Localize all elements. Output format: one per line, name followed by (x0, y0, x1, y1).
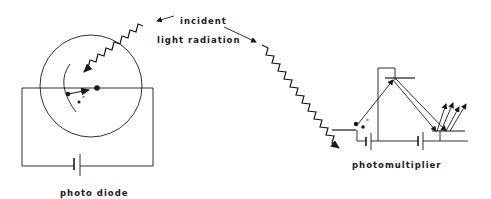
electron-charge-label: - (82, 93, 85, 101)
diode-housing-circle (40, 35, 142, 137)
pm-electron-path-up (358, 80, 393, 124)
photomultiplier-label: photomultiplier (352, 160, 442, 170)
pm-electron-small (361, 125, 365, 129)
photo-diode: - photo diode (22, 24, 153, 198)
incident-light-wave-right (262, 45, 339, 148)
label-arrow-left (157, 16, 174, 21)
pm-electron-path-down1 (393, 80, 436, 131)
pm-electron-charge: - (366, 116, 369, 124)
incident-text: incident (180, 16, 227, 26)
anode-dot (94, 85, 100, 91)
light-radiation-text: light radiation (157, 35, 241, 45)
photodetector-diagram: - photo diode incident light radiation - (0, 0, 491, 199)
pm-electron-dot (354, 122, 358, 126)
electron-path-arrow (68, 90, 89, 94)
cathode-lead (357, 130, 366, 141)
incident-light-wave-left (84, 24, 143, 72)
dynode-housing (378, 68, 395, 141)
electron-small-dot (78, 101, 81, 104)
photo-diode-label: photo diode (60, 188, 129, 198)
incident-light-label: incident light radiation (157, 16, 256, 45)
pm-electron-path-down2 (395, 78, 446, 131)
photomultiplier: - photomultiplier (262, 45, 468, 170)
secondary-electron-2 (441, 103, 453, 131)
